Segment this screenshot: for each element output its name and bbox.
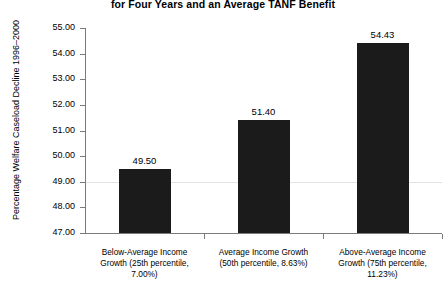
x-axis-tick-mark <box>204 234 205 239</box>
bar-value-label: 51.40 <box>234 107 294 117</box>
bar <box>357 43 409 233</box>
y-axis-tick-label: 53.00 <box>31 74 75 83</box>
plot-area <box>85 28 442 233</box>
y-axis-line <box>85 28 86 234</box>
y-axis-tick-label: 55.00 <box>31 23 75 32</box>
bar-chart: for Four Years and an Average TANF Benef… <box>0 0 446 293</box>
y-axis-tick-label: 51.00 <box>31 126 75 135</box>
x-axis-category-label: Average Income Growth(50th percentile, 8… <box>204 247 323 269</box>
bar <box>119 169 171 233</box>
x-axis-line <box>85 233 442 234</box>
bar-value-label: 49.50 <box>115 156 175 166</box>
bar <box>238 120 290 233</box>
x-axis-category-label: Below-Average IncomeGrowth (25th percent… <box>85 247 204 280</box>
y-axis-tick-label: 54.00 <box>31 49 75 58</box>
y-axis-tick-label: 47.00 <box>31 228 75 237</box>
x-axis-tick-mark <box>323 234 324 239</box>
x-axis-category-label: Above-Average IncomeGrowth (75th percent… <box>323 247 442 280</box>
bar-value-label: 54.43 <box>353 30 413 40</box>
y-axis-title: Percentage Welfare Caseload Decline 1996… <box>11 0 21 240</box>
y-axis-tick-label: 50.00 <box>31 151 75 160</box>
y-axis-tick-label: 52.00 <box>31 100 75 109</box>
y-axis-tick-label: 49.00 <box>31 177 75 186</box>
y-axis-tick-label: 48.00 <box>31 202 75 211</box>
x-axis-tick-mark <box>442 234 443 239</box>
chart-title: for Four Years and an Average TANF Benef… <box>0 0 446 10</box>
